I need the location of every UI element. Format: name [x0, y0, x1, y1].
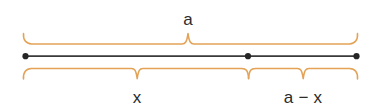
total-length-brace — [23, 34, 357, 44]
main-segment — [22, 53, 359, 59]
first-part-label: x — [133, 89, 142, 106]
a-minus-x-length-brace — [249, 68, 358, 79]
left-endpoint-dot — [22, 53, 28, 59]
total-length-brace-path — [23, 34, 357, 44]
second-part-label: a − x — [284, 89, 322, 106]
line-segment-diagram: a x a − x — [0, 0, 383, 111]
x-length-brace — [23, 68, 248, 79]
total-length-label: a — [183, 11, 193, 28]
x-length-brace-path — [23, 68, 248, 79]
a-minus-x-length-brace-path — [249, 68, 358, 79]
right-endpoint-dot — [353, 53, 359, 59]
division-point-dot — [245, 53, 251, 59]
